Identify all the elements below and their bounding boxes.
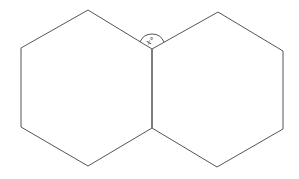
hexagon-diagram: x° <box>0 0 299 179</box>
left-hexagon <box>21 10 152 166</box>
right-hexagon <box>152 12 283 167</box>
